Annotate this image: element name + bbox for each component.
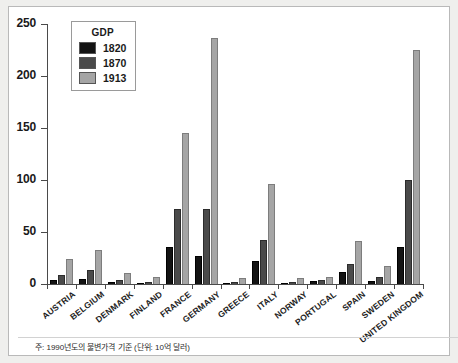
legend-label: 1870 <box>103 57 126 69</box>
bar <box>195 256 202 284</box>
bar <box>174 209 181 284</box>
bar <box>166 247 173 284</box>
chart-legend: GDP 182018701913 <box>71 21 136 91</box>
bar <box>203 209 210 284</box>
bar <box>50 280 57 284</box>
bar-group <box>192 24 221 284</box>
bar <box>95 250 102 284</box>
legend-items: 182018701913 <box>79 42 126 84</box>
bar <box>137 283 144 285</box>
bar <box>397 247 404 284</box>
bar <box>153 277 160 284</box>
y-tick-label: 100 <box>17 172 36 186</box>
x-tick <box>336 284 337 289</box>
bar <box>355 241 362 284</box>
x-tick <box>307 284 308 289</box>
bar <box>252 261 259 284</box>
bar <box>339 272 346 284</box>
y-tick-label: 250 <box>17 16 36 30</box>
caption-divider <box>18 337 458 338</box>
x-tick <box>47 284 48 289</box>
x-tick <box>163 284 164 289</box>
bar-group <box>249 24 278 284</box>
legend-item: 1913 <box>79 72 126 84</box>
bar <box>413 50 420 284</box>
bar-group <box>394 24 423 284</box>
bar <box>66 259 73 284</box>
bar <box>58 275 65 284</box>
x-tick <box>76 284 77 289</box>
bar-group <box>307 24 336 284</box>
bar <box>326 277 333 284</box>
bar <box>239 278 246 284</box>
bar <box>405 180 412 284</box>
bar-group <box>163 24 192 284</box>
y-tick-label: 50 <box>23 224 36 238</box>
x-tick <box>423 284 424 289</box>
y-tick-label: 200 <box>17 68 36 82</box>
bar <box>376 277 383 284</box>
bar-group <box>336 24 365 284</box>
chart-panel: 050100150200250 AUSTRIABELGIUMDENMARKFIN… <box>8 6 450 356</box>
bar <box>368 281 375 284</box>
legend-swatch <box>79 42 96 54</box>
bar <box>310 281 317 284</box>
legend-swatch <box>79 72 96 84</box>
x-tick <box>221 284 222 289</box>
chart-figure: 050100150200250 AUSTRIABELGIUMDENMARKFIN… <box>0 0 458 363</box>
bar <box>145 282 152 284</box>
bar <box>318 280 325 284</box>
legend-swatch <box>79 57 96 69</box>
x-axis-label: GREECE <box>216 289 251 320</box>
bar <box>231 282 238 284</box>
bar-group <box>221 24 250 284</box>
y-tick-label: 0 <box>30 276 36 290</box>
bar <box>79 279 86 284</box>
bar <box>124 273 131 284</box>
legend-label: 1820 <box>103 42 126 54</box>
bar <box>223 283 230 285</box>
bar <box>211 38 218 284</box>
bar <box>182 133 189 284</box>
bar <box>87 270 94 284</box>
bar <box>289 282 296 284</box>
bar <box>116 280 123 284</box>
bar-group <box>278 24 307 284</box>
legend-label: 1913 <box>103 72 126 84</box>
x-tick <box>192 284 193 289</box>
legend-title: GDP <box>79 27 126 38</box>
bar-group <box>134 24 163 284</box>
bar <box>260 240 267 284</box>
x-tick <box>365 284 366 289</box>
x-tick <box>249 284 250 289</box>
x-tick <box>105 284 106 289</box>
y-tick-label: 150 <box>17 120 36 134</box>
bar <box>268 184 275 284</box>
bar-group <box>365 24 394 284</box>
legend-item: 1870 <box>79 57 126 69</box>
bar <box>384 266 391 284</box>
bar <box>347 264 354 284</box>
legend-item: 1820 <box>79 42 126 54</box>
x-axis-line <box>47 284 424 285</box>
x-tick <box>394 284 395 289</box>
chart-caption: 주: 1990년도의 불변가격 기준 (단위: 10억 달러) <box>35 341 190 352</box>
x-tick <box>134 284 135 289</box>
bar <box>108 282 115 284</box>
x-tick <box>278 284 279 289</box>
bar <box>281 283 288 285</box>
bar <box>297 278 304 284</box>
